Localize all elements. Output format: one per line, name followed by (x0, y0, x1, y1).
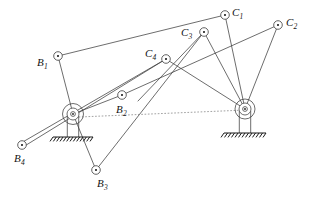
right-ground-pivot-hatch-tick (228, 133, 231, 137)
label-C2-subscript: 2 (294, 22, 298, 31)
label-B4: B4 (14, 153, 25, 166)
label-C4: C4 (145, 48, 156, 61)
label-B2-subscript: 2 (123, 109, 127, 118)
kinematic-diagram: B1B2B3B4C1C2C3C4 (0, 0, 319, 200)
link-B3-pivotL (73, 114, 96, 170)
nodes-group (18, 11, 283, 175)
link-B1-C1 (58, 15, 225, 56)
left-ground-pivot-hatch-tick (63, 137, 66, 141)
right-ground-pivot-hatch-tick (232, 133, 235, 137)
link-C4-pivotR (166, 59, 245, 109)
joint-B4-dot (21, 144, 23, 146)
link-B4-C4-upper (21, 59, 166, 143)
link-C3-cross (138, 32, 204, 101)
left-ground-pivot-hatch-tick (60, 137, 63, 141)
right-ground-pivot-center-dot (244, 108, 246, 110)
label-B3: B3 (97, 178, 108, 191)
links-group (21, 15, 278, 170)
right-ground-pivot-hatch-tick (249, 133, 252, 137)
reference-line-group (79, 110, 246, 117)
label-B1-subscript: 1 (44, 62, 48, 71)
left-ground-pivot-hatch-tick (57, 137, 60, 141)
right-ground-pivot-hatch-tick (246, 133, 249, 137)
joint-C4-dot (165, 58, 167, 60)
left-ground-pivot-hatch-tick (83, 137, 86, 141)
joint-B3 (92, 166, 101, 175)
left-ground-pivot-hatch-tick (80, 137, 83, 141)
joint-B1 (54, 52, 63, 61)
joint-B2 (118, 91, 127, 100)
right-ground-pivot-hatch-tick (239, 133, 242, 137)
centerline (79, 110, 246, 117)
joint-C1-dot (224, 14, 226, 16)
label-B4-subscript: 4 (21, 158, 25, 167)
left-ground-pivot-hatch-tick (77, 137, 80, 141)
link-C1-pivotR (225, 15, 245, 109)
right-ground-pivot-hatch-tick (253, 133, 256, 137)
link-B2-pivotL (73, 95, 122, 114)
label-C1-letter: C (232, 6, 240, 18)
right-ground-pivot (221, 99, 266, 137)
right-ground-pivot-hatch-tick (260, 133, 263, 137)
right-ground-pivot-hatch-tick (256, 133, 259, 137)
label-C1: C1 (232, 7, 243, 20)
label-C4-letter: C (145, 47, 153, 59)
left-ground-pivot-hatch-tick (90, 137, 93, 141)
left-ground-pivot-hatch-tick (53, 137, 56, 141)
joint-B2-dot (121, 94, 123, 96)
diagram-canvas (0, 0, 319, 200)
left-ground-pivot-center-dot (72, 113, 74, 115)
link-B4-C4-lower (23, 59, 166, 147)
joint-C3 (200, 28, 209, 37)
joint-C2-dot (277, 24, 279, 26)
label-C3-letter: C (181, 26, 189, 38)
label-C1-subscript: 1 (240, 12, 244, 21)
label-B2-letter: B (116, 103, 123, 115)
label-C2-letter: C (286, 16, 294, 28)
label-B4-letter: B (14, 152, 21, 164)
label-C3: C3 (181, 27, 192, 40)
left-ground-pivot-hatch-tick (70, 137, 73, 141)
label-B1: B1 (37, 57, 48, 70)
pivots-group (50, 99, 266, 141)
right-ground-pivot-hatch-tick (235, 133, 238, 137)
joint-B4 (18, 141, 27, 150)
label-C4-subscript: 4 (153, 53, 157, 62)
joint-C3-dot (203, 31, 205, 33)
label-B3-letter: B (97, 177, 104, 189)
joint-B1-dot (57, 55, 59, 57)
label-B1-letter: B (37, 56, 44, 68)
joint-C2 (274, 21, 283, 30)
right-ground-pivot-hatch-tick (242, 133, 245, 137)
right-ground-pivot-hatch-tick (225, 133, 228, 137)
left-ground-pivot-hatch-tick (73, 137, 76, 141)
joint-C4 (162, 55, 171, 64)
right-ground-pivot-hatch-tick (221, 133, 224, 137)
left-ground-pivot-hatch-tick (87, 137, 90, 141)
label-B2: B2 (116, 104, 127, 117)
joint-B3-dot (95, 169, 97, 171)
label-B3-subscript: 3 (104, 183, 108, 192)
link-B1-pivotL (58, 56, 73, 114)
label-C2: C2 (286, 17, 297, 30)
left-ground-pivot-hatch-tick (67, 137, 70, 141)
left-ground-pivot-hatch-tick (50, 137, 53, 141)
link-C3-pivotR (204, 32, 245, 109)
label-C3-subscript: 3 (189, 32, 193, 41)
right-ground-pivot-hatch-tick (263, 133, 266, 137)
joint-C1 (221, 11, 230, 20)
